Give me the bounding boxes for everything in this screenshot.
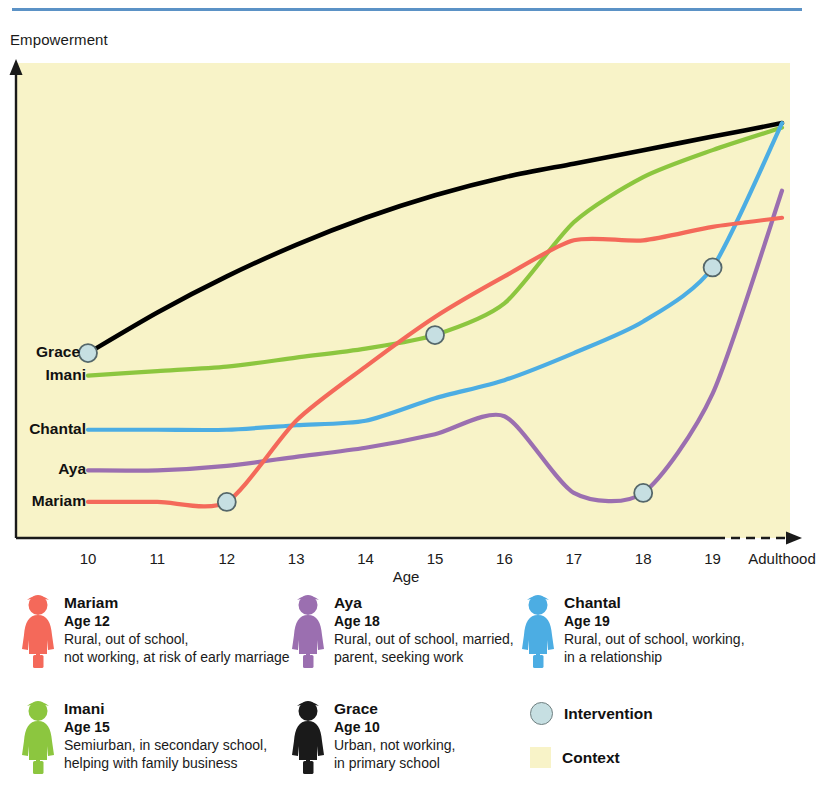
legend-text-imani: ImaniAge 15Semiurban, in secondary schoo…: [64, 698, 267, 772]
legend-name: Chantal: [564, 594, 745, 612]
context-swatch-icon: [530, 747, 551, 768]
x-tick-adulthood: Adulthood: [736, 550, 820, 567]
legend-text-grace: GraceAge 10Urban, not working, in primar…: [334, 698, 455, 772]
legend-name: Grace: [334, 700, 455, 718]
legend-key-label: Intervention: [564, 705, 653, 723]
legend-description: Rural, out of school, married, parent, s…: [334, 630, 514, 666]
y-axis-title: Empowerment: [10, 31, 108, 48]
person-figure-icon: [520, 592, 556, 668]
legend-description: Semiurban, in secondary school, helping …: [64, 736, 267, 772]
legend-text-aya: AyaAge 18Rural, out of school, married, …: [334, 592, 514, 666]
legend-description: Rural, out of school, not working, at ri…: [64, 630, 290, 666]
person-figure-icon: [20, 592, 56, 668]
legend: MariamAge 12Rural, out of school, not wo…: [0, 592, 812, 785]
person-figure-icon: [20, 698, 56, 774]
legend-key-label: Context: [562, 749, 620, 767]
legend-person-grace: GraceAge 10Urban, not working, in primar…: [290, 698, 455, 774]
legend-key-context: Context: [530, 747, 620, 768]
intervention-swatch-icon: [530, 702, 553, 725]
legend-name: Aya: [334, 594, 514, 612]
legend-figure-imani: [20, 698, 56, 774]
x-axis-title: Age: [0, 568, 812, 585]
intervention-marker-mariam[interactable]: [218, 493, 236, 511]
legend-age: Age 18: [334, 612, 514, 630]
legend-figure-aya: [290, 592, 326, 668]
series-label-grace: Grace: [0, 343, 80, 361]
intervention-marker-chantal[interactable]: [704, 258, 722, 276]
person-figure-icon: [290, 698, 326, 774]
legend-description: Rural, out of school, working, in a rela…: [564, 630, 745, 666]
legend-key-intervention: Intervention: [530, 702, 653, 725]
legend-figure-chantal: [520, 592, 556, 668]
intervention-marker-imani[interactable]: [426, 326, 444, 344]
series-label-chantal: Chantal: [0, 420, 86, 438]
series-label-aya: Aya: [0, 460, 86, 478]
legend-person-imani: ImaniAge 15Semiurban, in secondary schoo…: [20, 698, 267, 774]
intervention-marker-aya[interactable]: [634, 484, 652, 502]
legend-figure-grace: [290, 698, 326, 774]
line-chart-svg: [0, 55, 812, 595]
legend-figure-mariam: [20, 592, 56, 668]
person-figure-icon: [290, 592, 326, 668]
legend-age: Age 19: [564, 612, 745, 630]
legend-text-chantal: ChantalAge 19Rural, out of school, worki…: [564, 592, 745, 666]
legend-name: Mariam: [64, 594, 290, 612]
legend-description: Urban, not working, in primary school: [334, 736, 455, 772]
legend-name: Imani: [64, 700, 267, 718]
legend-age: Age 10: [334, 718, 455, 736]
intervention-marker-grace[interactable]: [79, 344, 97, 362]
legend-text-mariam: MariamAge 12Rural, out of school, not wo…: [64, 592, 290, 666]
legend-person-mariam: MariamAge 12Rural, out of school, not wo…: [20, 592, 290, 668]
legend-age: Age 12: [64, 612, 290, 630]
top-divider: [12, 8, 802, 11]
series-label-mariam: Mariam: [0, 492, 86, 510]
x-axis-arrow-icon: [786, 532, 802, 545]
series-label-imani: Imani: [0, 366, 86, 384]
legend-person-aya: AyaAge 18Rural, out of school, married, …: [290, 592, 514, 668]
chart-area: GraceImaniChantalAyaMariam 1011121314151…: [0, 55, 812, 595]
legend-person-chantal: ChantalAge 19Rural, out of school, worki…: [520, 592, 745, 668]
legend-age: Age 15: [64, 718, 267, 736]
